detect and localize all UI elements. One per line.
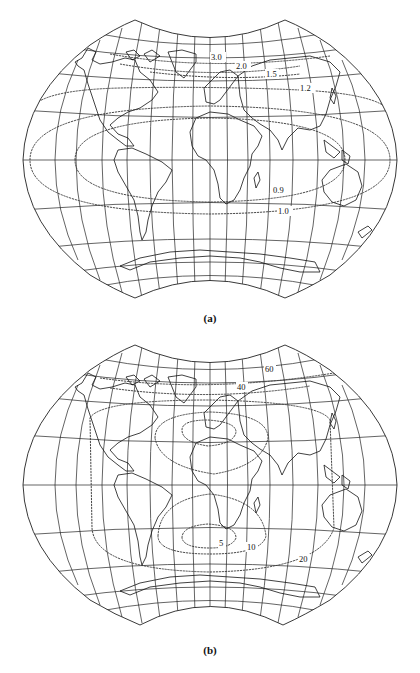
- caption-a: (a): [0, 312, 420, 324]
- caption-b: (b): [0, 644, 420, 656]
- contour-label-3.0: 3.0: [211, 52, 222, 62]
- map-panel-b: 60 40 20 10 5 (b): [0, 328, 420, 648]
- contour-label-1.5: 1.5: [266, 69, 277, 79]
- world-map-a: 3.0 2.0 1.5 1.2 0.9 1.0: [0, 0, 420, 310]
- contour-label-0.9: 0.9: [273, 185, 284, 195]
- contour-label-40: 40: [237, 382, 246, 392]
- contour-label-1.2: 1.2: [300, 83, 311, 93]
- contour-label-2.0: 2.0: [236, 61, 247, 71]
- graticule: [10, 347, 410, 623]
- contour-label-10: 10: [247, 542, 256, 552]
- contour-label-60: 60: [265, 364, 274, 374]
- contour-label-20: 20: [299, 554, 308, 564]
- map-panel-a: 3.0 2.0 1.5 1.2 0.9 1.0 (a): [0, 0, 420, 330]
- world-map-b: 60 40 20 10 5: [0, 328, 420, 638]
- contour-label-1.0: 1.0: [278, 206, 289, 216]
- contour-label-5: 5: [219, 538, 223, 548]
